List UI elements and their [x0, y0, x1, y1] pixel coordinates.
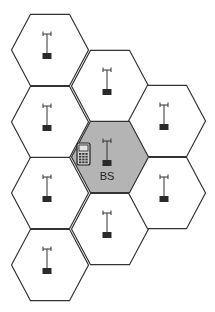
- cell-network-diagram: BS: [0, 0, 215, 312]
- cells-layer: [12, 14, 206, 300]
- mobile-phone-icon: [77, 143, 90, 165]
- base-station-label: BS: [100, 170, 115, 182]
